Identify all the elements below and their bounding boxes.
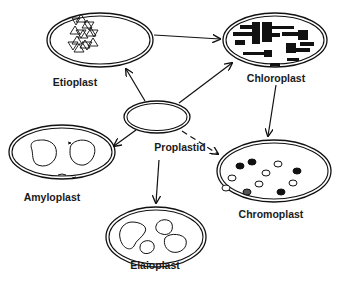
arrow-proplastid-to-chloroplast (179, 63, 232, 103)
chloroplast-label: Chloroplast (247, 72, 305, 84)
arrow-etioplast-to-chloroplast (154, 35, 220, 39)
prolamellar-body-icon (68, 14, 98, 52)
oil-body-icon (120, 220, 187, 254)
arrow-proplastid-to-elaioplast (156, 160, 159, 203)
etioplast-label: Etioplast (53, 76, 97, 88)
amyloplast-label: Amyloplast (24, 191, 81, 203)
chromoplast-label: Chromoplast (239, 208, 304, 220)
proplastid-node (124, 101, 190, 133)
proplastid-label: Proplastid (154, 141, 205, 153)
chloroplast-node (223, 13, 327, 67)
arrow-proplastid-to-amyloplast (114, 130, 136, 146)
etioplast-node (47, 13, 153, 67)
elaioplast-node (106, 207, 206, 267)
arrow-chloroplast-to-chromoplast (268, 85, 276, 136)
amyloplast-node (9, 125, 115, 179)
starch-grain-icon (31, 140, 95, 178)
chromoplast-node (217, 140, 331, 202)
elaioplast-label: Elaioplast (130, 259, 180, 271)
arrows (114, 35, 276, 203)
arrow-proplastid-to-etioplast (126, 69, 145, 101)
